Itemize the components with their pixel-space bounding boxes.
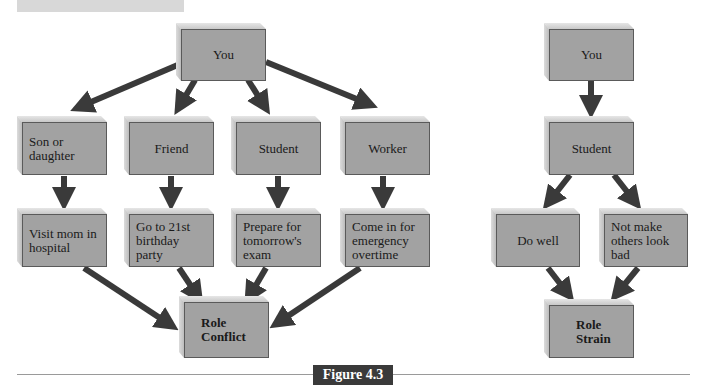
box-label: Prepare for tomorrow's exam xyxy=(243,220,302,262)
box-label: Worker xyxy=(368,142,407,156)
you-box-conflict: You xyxy=(176,23,266,81)
role-conflict-box: Role Conflict xyxy=(179,296,269,358)
box-label: You xyxy=(581,48,602,62)
box-label: You xyxy=(213,48,234,62)
demand-not-make-others-look-bad-box: Not make others look bad xyxy=(599,208,688,267)
arrow-you-son xyxy=(84,64,180,105)
demand-do-well-box: Do well xyxy=(491,208,580,267)
box-label: Role Strain xyxy=(576,318,611,346)
role-friend-box: Friend xyxy=(124,116,214,175)
box-label: Not make others look bad xyxy=(611,220,669,262)
box-label: Friend xyxy=(155,142,189,156)
box-label: Visit mom in hospital xyxy=(29,227,97,255)
demand-overtime-box: Come in for emergency overtime xyxy=(340,208,430,267)
figure-label: Figure 4.3 xyxy=(313,365,393,385)
role-student-strain-box: Student xyxy=(544,116,634,175)
demand-birthday-party-box: Go to 21st birthday party xyxy=(124,208,214,267)
caption-rule-left xyxy=(17,374,313,375)
role-worker-box: Worker xyxy=(340,116,430,175)
arrow-you-friend xyxy=(182,80,195,102)
role-son-daughter-box: Son or daughter xyxy=(17,116,107,175)
caption-rule-right xyxy=(393,374,690,375)
box-label: Do well xyxy=(517,234,559,248)
arrow-you-student xyxy=(248,80,262,102)
demand-visit-mom-box: Visit mom in hospital xyxy=(17,208,107,267)
demand-prepare-exam-box: Prepare for tomorrow's exam xyxy=(231,208,321,267)
box-label: Son or daughter xyxy=(29,135,74,163)
you-box-strain: You xyxy=(544,23,634,81)
role-strain-box: Role Strain xyxy=(544,299,634,358)
box-label: Go to 21st birthday party xyxy=(136,220,190,262)
box-label: Student xyxy=(572,142,612,156)
box-label: Role Conflict xyxy=(201,316,246,344)
role-student-box: Student xyxy=(231,116,321,175)
arrow-you-worker xyxy=(266,62,364,102)
box-label: Student xyxy=(259,142,299,156)
box-label: Come in for emergency overtime xyxy=(352,220,415,262)
